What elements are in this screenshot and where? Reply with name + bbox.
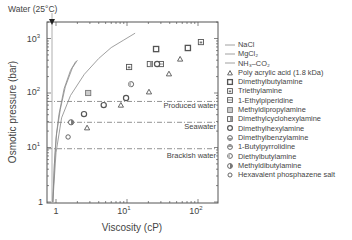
legend-label: Triethylamine	[238, 86, 282, 95]
plot-axes	[47, 22, 218, 203]
square-light-icon	[228, 107, 233, 112]
circle-icon	[123, 95, 128, 100]
legend-label: Hexavalent phosphazene salt	[238, 170, 335, 179]
circle-icon	[101, 102, 106, 107]
legend-label: MgCl₂	[238, 49, 258, 58]
legend-symbol-icon	[225, 106, 235, 114]
legend-item: Dimethylcyclohexylamine	[225, 114, 335, 123]
data-point	[185, 45, 190, 50]
legend-label: NaCl	[238, 40, 254, 49]
legend-item: 1-Butylpyrrolidine	[225, 142, 335, 151]
legend-label: Dimethylbenzylamine	[238, 133, 308, 142]
circle-icon	[81, 112, 86, 117]
plot-frame	[47, 22, 218, 203]
brackish-water-label: Brackish water	[167, 151, 217, 160]
data-point	[147, 61, 152, 66]
legend-item: Hexavalent phosphazene salt	[225, 170, 335, 179]
curve-nh3-co2	[53, 33, 135, 202]
circle-small-icon	[66, 135, 70, 139]
water-label: Water (25°C)	[8, 4, 58, 14]
legend-symbol-icon	[225, 152, 235, 160]
axis-ticks	[47, 22, 218, 203]
circle-icon	[228, 126, 233, 131]
data-point	[146, 89, 151, 94]
legend-item: NaCl	[225, 40, 335, 49]
x-axis-title: Viscosity (cP)	[102, 222, 162, 233]
data-point	[154, 46, 159, 51]
legend-item: Triethylamine	[225, 86, 335, 95]
produced-water-label: Produced water	[163, 101, 216, 110]
legend-item: Dimethylhexylamine	[225, 124, 335, 133]
triangle-icon	[146, 89, 151, 94]
legend-label: Diethylbutylamine	[238, 152, 296, 161]
data-point	[68, 120, 73, 125]
square-icon	[154, 46, 159, 51]
legend-symbol-icon	[225, 41, 235, 49]
legend-item: MgCl₂	[225, 49, 335, 58]
legend-symbol-icon	[225, 50, 235, 58]
data-point	[154, 61, 159, 66]
data-point	[118, 102, 123, 107]
legend-label: Dimethylbutylamine	[238, 77, 303, 86]
x-tick-100: 102	[189, 205, 203, 216]
data-point	[84, 125, 89, 130]
legend-label: Methyldipropylamine	[238, 105, 306, 114]
legend-symbol-icon	[225, 143, 235, 151]
data-point	[86, 90, 91, 95]
legend-item: NH₃–CO₂	[225, 59, 335, 68]
legend-item: Dimethylbenzylamine	[225, 133, 335, 142]
triangle-icon	[228, 70, 233, 74]
legend-symbol-icon	[225, 87, 235, 95]
chart-legend: NaClMgCl₂NH₃–CO₂Poly acrylic acid (1.8 k…	[225, 40, 335, 179]
curve-nacl	[53, 61, 76, 202]
legend-symbol-icon	[225, 78, 235, 86]
y-tick-1: 1	[38, 197, 43, 207]
data-point	[101, 102, 106, 107]
electrolyte-curves	[53, 33, 135, 202]
legend-symbol-icon	[225, 59, 235, 67]
legend-label: Poly acrylic acid (1.8 kDa)	[238, 68, 323, 77]
legend-item: Methyldibutylamine	[225, 161, 335, 170]
data-point	[178, 56, 183, 61]
y-tick-100: 102	[27, 86, 41, 97]
data-point	[128, 82, 133, 87]
triangle-icon	[118, 102, 123, 107]
x-tick-1: 1	[53, 206, 58, 216]
triangle-icon	[178, 56, 183, 61]
legend-label: Dimethylhexylamine	[238, 124, 304, 133]
data-point	[66, 135, 70, 139]
legend-label: Methyldibutylamine	[238, 161, 301, 170]
circle-icon	[154, 61, 159, 66]
legend-label: Dimethylcyclohexylamine	[238, 114, 321, 123]
legend-label: NH₃–CO₂	[238, 59, 270, 68]
triangle-icon	[166, 71, 171, 76]
legend-symbol-icon	[225, 69, 235, 77]
y-tick-1000: 103	[27, 33, 41, 44]
legend-item: Poly acrylic acid (1.8 kDa)	[225, 68, 335, 77]
data-points	[66, 39, 204, 139]
square-icon	[185, 45, 190, 50]
legend-symbol-icon	[225, 162, 235, 170]
square-icon	[228, 79, 233, 84]
y-tick-10: 101	[27, 141, 41, 152]
data-point	[123, 95, 128, 100]
data-point	[166, 71, 171, 76]
circle-small-icon	[228, 173, 232, 177]
seawater-label: Seawater	[184, 122, 216, 131]
legend-label: 1-Ethylpiperidine	[238, 96, 293, 105]
legend-symbol-icon	[225, 124, 235, 132]
y-axis-title: Osmotic pressure (bar)	[7, 61, 18, 163]
legend-label: 1-Butylpyrrolidine	[238, 142, 295, 151]
x-tick-10: 101	[117, 205, 131, 216]
data-point	[126, 64, 131, 69]
legend-item: 1-Ethylpiperidine	[225, 96, 335, 105]
data-point	[81, 112, 86, 117]
square-light-icon	[86, 90, 91, 95]
legend-item: Diethylbutylamine	[225, 152, 335, 161]
legend-symbol-icon	[225, 134, 235, 142]
legend-item: Methyldipropylamine	[225, 105, 335, 114]
legend-symbol-icon	[225, 115, 235, 123]
triangle-icon	[84, 125, 89, 130]
data-point	[198, 39, 203, 44]
legend-symbol-icon	[225, 171, 235, 179]
